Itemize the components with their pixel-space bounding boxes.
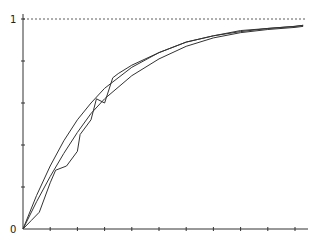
smooth-curve-b-line <box>23 26 303 229</box>
smooth-curve-a-line <box>23 25 303 229</box>
series-group <box>23 25 303 229</box>
empirical-step-curve-line <box>23 25 303 229</box>
y-label-one: 1 <box>10 14 16 25</box>
y-label-zero: 0 <box>10 224 16 235</box>
chart: 1 0 <box>0 0 317 247</box>
